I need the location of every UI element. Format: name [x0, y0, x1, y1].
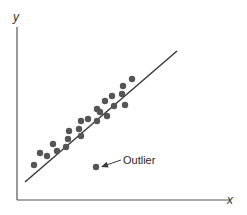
data-points	[31, 76, 135, 170]
axes: y x	[12, 10, 234, 207]
outlier-point	[93, 164, 99, 170]
data-point	[63, 144, 69, 150]
data-point	[54, 148, 60, 154]
outlier-label: Outlier	[123, 154, 156, 166]
data-point	[122, 102, 128, 108]
data-point	[44, 153, 50, 159]
data-point	[111, 103, 117, 109]
data-point	[66, 128, 72, 134]
data-point	[104, 113, 110, 119]
data-point	[50, 141, 56, 147]
scatter-chart: y x Outlier	[0, 0, 247, 215]
data-point	[97, 109, 103, 115]
data-point	[37, 150, 43, 156]
data-point	[76, 126, 82, 132]
data-point	[109, 93, 115, 99]
outlier-annotation: Outlier	[101, 154, 156, 168]
data-point	[119, 91, 125, 97]
y-axis-label: y	[12, 10, 20, 24]
data-point	[120, 83, 126, 89]
data-point	[78, 133, 84, 139]
data-point	[129, 76, 135, 82]
data-point	[94, 118, 100, 124]
data-point	[31, 162, 37, 168]
data-point	[78, 118, 84, 124]
data-point	[85, 116, 91, 122]
data-point	[102, 98, 108, 104]
data-point	[65, 136, 71, 142]
arrowhead-icon	[101, 162, 109, 168]
x-axis-label: x	[226, 193, 234, 207]
